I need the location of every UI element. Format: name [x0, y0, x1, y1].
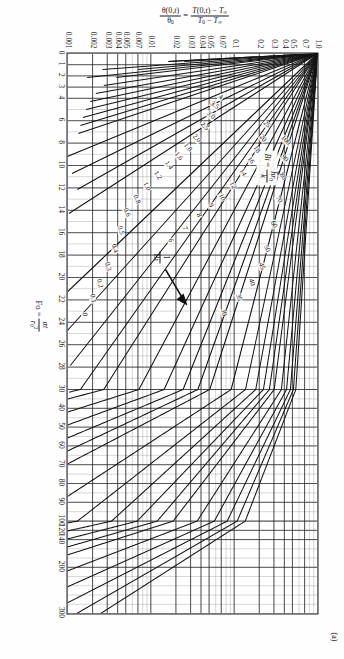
y-axis-title-left-den: θ0 [159, 16, 180, 25]
y-tick-0_001: 0.001 [64, 14, 71, 48]
x-tick-4: 4 [57, 95, 64, 99]
x-tick-70: 70 [57, 459, 64, 466]
bi-definition-legend: Bi = hr0 k [256, 150, 277, 185]
x-tick-80: 80 [57, 478, 64, 485]
curve-14 [67, 53, 317, 425]
x-tick-22: 22 [57, 295, 64, 302]
y-tick-0_3: 0.3 [271, 14, 278, 48]
bi-symbol: Bi [263, 153, 272, 160]
curve-16 [67, 53, 317, 439]
curve-9 [69, 53, 317, 392]
y-axis-title-right-den: T0 − T∞ [190, 16, 229, 25]
x-tick-1: 1 [57, 61, 64, 65]
heisler-chart-figure: Bi = hr0 k 1Bi 012346810121416182022242 [0, 0, 344, 659]
x-tick-28: 28 [57, 362, 64, 369]
x-tick-10: 10 [57, 160, 64, 167]
x-tick-0: 0 [57, 50, 64, 54]
x-axis-title-equals: = [34, 311, 44, 316]
y-axis-title-left-num: θ(0,t) [159, 6, 180, 16]
x-tick-200: 200 [57, 560, 64, 571]
x-tick-26: 26 [57, 339, 64, 346]
y-tick-0_2: 0.2 [256, 14, 263, 48]
x-tick-50: 50 [57, 422, 64, 429]
x-tick-3: 3 [57, 84, 64, 88]
bi-denominator: k [257, 169, 266, 183]
x-axis-title-numerator: αt [38, 318, 48, 331]
x-tick-20: 20 [57, 272, 64, 279]
y-tick-0_007: 0.007 [135, 14, 142, 48]
x-tick-6: 6 [57, 117, 64, 121]
y-tick-0_5: 0.5 [289, 14, 296, 48]
y-axis-title-equals: = [183, 9, 188, 19]
x-tick-18: 18 [57, 250, 64, 257]
y-axis-title-left-fraction: θ(0,t) θ0 [159, 6, 180, 25]
x-tick-14: 14 [57, 205, 64, 212]
curve-label-0: 0 [80, 311, 88, 317]
curve-label-0_1: 0.1 [88, 293, 97, 304]
curve-label-30: 30 [218, 307, 227, 317]
pointer-arrow-icon [159, 265, 189, 311]
x-tick-24: 24 [57, 317, 64, 324]
one-over-bi-annotation: 1Bi [157, 265, 189, 311]
x-tick-140: 140 [57, 533, 64, 544]
panel-label: (a) [329, 632, 338, 641]
x-tick-90: 90 [57, 497, 64, 504]
y-tick-0_002: 0.002 [89, 14, 96, 48]
y-tick-0_003: 0.003 [104, 14, 111, 48]
curve-60 [67, 53, 317, 571]
rotated-figure-container: Bi = hr0 k 1Bi 012346810121416182022242 [0, 0, 344, 659]
x-tick-30: 30 [57, 384, 64, 391]
bi-equals: = [263, 162, 272, 167]
x-axis-title-prefix: Fo [34, 300, 44, 309]
x-tick-60: 60 [57, 441, 64, 448]
x-tick-2: 2 [57, 73, 64, 77]
y-tick-0_7: 0.7 [301, 14, 308, 48]
x-tick-40: 40 [57, 403, 64, 410]
y-tick-0_4: 0.4 [281, 14, 288, 48]
x-axis-title-fraction: αt r02 [28, 318, 48, 331]
x-tick-12: 12 [57, 183, 64, 190]
x-axis-title-denominator: r02 [28, 318, 38, 331]
y-tick-0_004: 0.004 [114, 14, 121, 48]
one-over-bi-label: 1Bi [150, 251, 169, 263]
bi-numerator: hr0 [266, 169, 276, 183]
y-axis-title: θ(0,t) θ0 = T(0,t) − T∞ T0 − T∞ [159, 6, 228, 25]
y-tick-0_01: 0.01 [148, 14, 155, 48]
x-tick-300: 300 [57, 606, 64, 617]
curve-label-0_2: 0.2 [94, 277, 103, 288]
y-axis-title-right-fraction: T(0,t) − T∞ T0 − T∞ [190, 6, 229, 25]
y-tick-0_1: 0.1 [231, 14, 238, 48]
figure-page: Bi = hr0 k 1Bi 012346810121416182022242 [0, 0, 344, 659]
x-tick-8: 8 [57, 140, 64, 144]
curve-4 [68, 53, 316, 213]
y-tick-0_005: 0.005 [123, 14, 130, 48]
y-axis-title-right-num: T(0,t) − T∞ [190, 6, 229, 16]
bi-fraction: hr0 k [257, 169, 276, 183]
x-tick-16: 16 [57, 227, 64, 234]
x-axis-title: Fo = αt r02 [28, 300, 48, 331]
y-tick-1_0: 1.0 [314, 14, 321, 48]
